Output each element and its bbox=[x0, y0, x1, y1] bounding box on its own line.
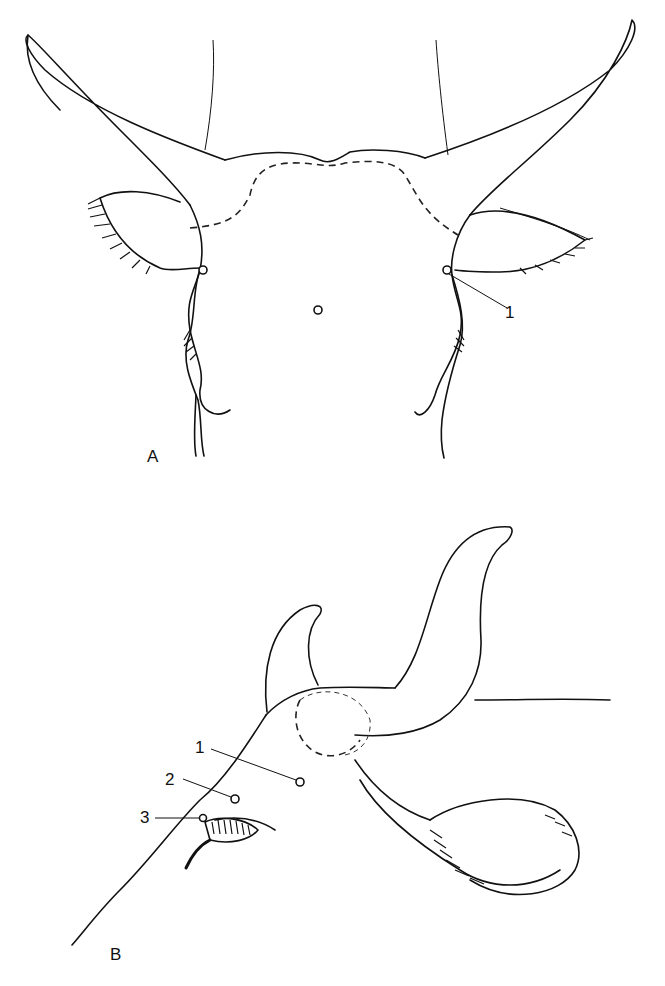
panel-a-drawing bbox=[26, 20, 635, 458]
callout-b-3: 3 bbox=[140, 808, 149, 828]
point-a-left bbox=[199, 266, 207, 274]
point-a-right bbox=[443, 266, 451, 274]
panel-b-drawing bbox=[72, 527, 610, 945]
point-b-3 bbox=[200, 815, 207, 822]
callout-a-1: 1 bbox=[505, 303, 514, 323]
callout-b-2: 2 bbox=[165, 770, 174, 790]
diagram-canvas bbox=[0, 0, 665, 986]
point-b-1 bbox=[296, 778, 304, 786]
panel-label-a: A bbox=[147, 447, 158, 467]
panel-label-b: B bbox=[110, 945, 121, 965]
callout-b-1: 1 bbox=[195, 738, 204, 758]
point-a-center bbox=[314, 306, 322, 314]
point-b-2 bbox=[231, 795, 239, 803]
